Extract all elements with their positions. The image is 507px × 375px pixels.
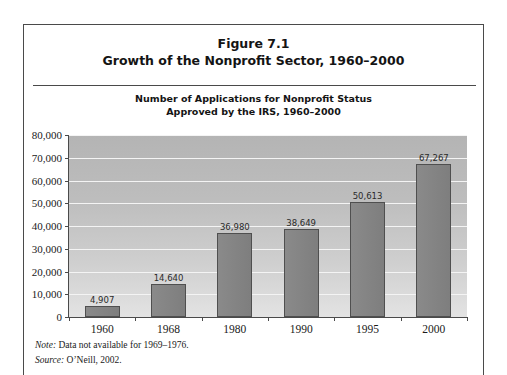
title-divider bbox=[33, 85, 476, 86]
figure-title: Figure 7.1 Growth of the Nonprofit Secto… bbox=[24, 35, 483, 69]
x-axis-tick bbox=[334, 317, 335, 321]
x-axis-label: 1968 bbox=[157, 323, 180, 335]
bar-value-label: 50,613 bbox=[353, 191, 383, 201]
gridline bbox=[69, 203, 467, 204]
x-axis-tick bbox=[401, 317, 402, 321]
footnotes: Note: Data not available for 1969–1976. … bbox=[35, 338, 189, 368]
x-axis-tick bbox=[268, 317, 269, 321]
y-axis-label: 60,000 bbox=[32, 175, 62, 187]
y-axis-label: 80,000 bbox=[32, 129, 62, 141]
bar: 50,613 bbox=[350, 202, 385, 317]
y-axis-label: 30,000 bbox=[32, 243, 62, 255]
y-axis-line bbox=[68, 135, 69, 317]
gridline bbox=[69, 272, 467, 273]
x-axis-label: 2000 bbox=[422, 323, 445, 335]
x-axis-label: 1980 bbox=[223, 323, 246, 335]
source-label: Source: bbox=[35, 355, 64, 365]
x-axis-tick bbox=[69, 317, 70, 321]
y-axis-label: 0 bbox=[57, 311, 63, 323]
bar-value-label: 38,649 bbox=[286, 218, 316, 228]
source-line: Source: O’Neill, 2002. bbox=[35, 353, 189, 368]
x-axis-tick bbox=[135, 317, 136, 321]
note-label: Note: bbox=[35, 340, 56, 350]
chart-subtitle-line-1: Number of Applications for Nonprofit Sta… bbox=[24, 93, 483, 106]
gridline bbox=[69, 249, 467, 250]
figure-title-line-2: Growth of the Nonprofit Sector, 1960–200… bbox=[24, 52, 483, 69]
bar-value-label: 4,907 bbox=[90, 295, 114, 305]
y-axis-label: 40,000 bbox=[32, 220, 62, 232]
y-axis-label: 20,000 bbox=[32, 266, 62, 278]
source-text: O’Neill, 2002. bbox=[64, 355, 122, 365]
chart-subtitle: Number of Applications for Nonprofit Sta… bbox=[24, 93, 483, 118]
bar-value-label: 36,980 bbox=[220, 222, 250, 232]
x-axis-label: 1990 bbox=[290, 323, 313, 335]
bar-chart: 010,00020,00030,00040,00050,00060,00070,… bbox=[69, 135, 467, 317]
gridline bbox=[69, 181, 467, 182]
bar: 38,649 bbox=[284, 229, 319, 317]
bar: 4,907 bbox=[85, 306, 120, 317]
x-axis-label: 1960 bbox=[91, 323, 114, 335]
x-axis-tick bbox=[467, 317, 468, 321]
x-axis-tick bbox=[202, 317, 203, 321]
figure-frame: Figure 7.1 Growth of the Nonprofit Secto… bbox=[23, 24, 484, 375]
bar: 14,640 bbox=[151, 284, 186, 317]
gridline bbox=[69, 294, 467, 295]
y-axis-label: 10,000 bbox=[32, 288, 62, 300]
bar: 36,980 bbox=[217, 233, 252, 317]
gridline bbox=[69, 158, 467, 159]
y-axis-label: 70,000 bbox=[32, 152, 62, 164]
bar-value-label: 14,640 bbox=[154, 273, 184, 283]
bar: 67,267 bbox=[416, 164, 451, 317]
bar-value-label: 67,267 bbox=[419, 153, 449, 163]
figure-title-line-1: Figure 7.1 bbox=[24, 35, 483, 52]
gridline bbox=[69, 226, 467, 227]
x-axis-label: 1995 bbox=[356, 323, 379, 335]
note-text: Data not available for 1969–1976. bbox=[56, 340, 188, 350]
note-line: Note: Data not available for 1969–1976. bbox=[35, 338, 189, 353]
gridline bbox=[69, 135, 467, 136]
chart-subtitle-line-2: Approved by the IRS, 1960–2000 bbox=[24, 106, 483, 119]
y-axis-label: 50,000 bbox=[32, 197, 62, 209]
